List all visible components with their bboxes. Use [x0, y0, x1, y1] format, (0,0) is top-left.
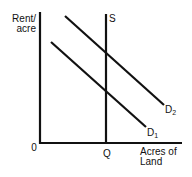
demand-d2-label: D2	[165, 104, 176, 116]
demand-d1-label: D1	[147, 127, 158, 139]
x-axis-label-line2: Land	[140, 156, 162, 167]
supply-label: S	[109, 13, 116, 24]
origin-label: 0	[31, 142, 37, 153]
y-axis-label-line2: acre	[17, 23, 37, 34]
demand-line-d2	[65, 16, 164, 105]
x-tick-label-q: Q	[103, 148, 111, 159]
rent-supply-demand-chart: Rent/ acre S D2 D1 0 Q Acres of Land	[0, 0, 192, 177]
demand-line-d1	[51, 42, 146, 127]
